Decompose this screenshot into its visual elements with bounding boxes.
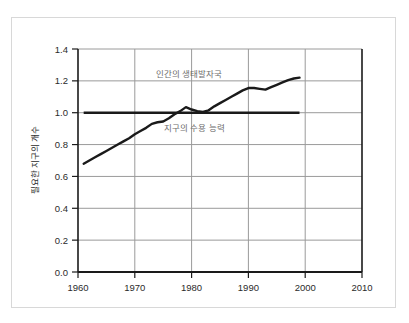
x-tick-label-1980: 1980 <box>181 282 202 293</box>
ecological-footprint-chart: 0.0 0.2 0.4 0.6 0.8 1.0 1.2 1.4 1960 197… <box>0 0 409 323</box>
y-tick-label-0: 0.0 <box>55 267 68 278</box>
x-tick-label-1960: 1960 <box>67 282 88 293</box>
annotation-carrying-capacity: 지구의 수용 능력 <box>164 123 225 133</box>
y-tick-label-3: 0.6 <box>55 171 68 182</box>
x-tick-label-1970: 1970 <box>124 282 145 293</box>
y-tick-label-5: 1.0 <box>55 107 68 118</box>
y-tick-label-1: 0.2 <box>55 235 68 246</box>
y-tick-label-6: 1.2 <box>55 75 68 86</box>
plot-background <box>78 49 362 272</box>
y-axis-title: 필요한 지구의 개수 <box>30 126 40 195</box>
x-tick-label-1990: 1990 <box>238 282 259 293</box>
x-tick-label-2010: 2010 <box>351 282 372 293</box>
y-tick-label-4: 0.8 <box>55 139 68 150</box>
y-tick-label-2: 0.4 <box>55 203 68 214</box>
y-axis-ticks <box>72 49 78 272</box>
annotation-ecological-footprint: 인간의 생태발자국 <box>156 69 222 79</box>
y-tick-label-7: 1.4 <box>55 44 68 55</box>
x-tick-label-2000: 2000 <box>295 282 316 293</box>
chart-figure: 0.0 0.2 0.4 0.6 0.8 1.0 1.2 1.4 1960 197… <box>0 0 409 323</box>
